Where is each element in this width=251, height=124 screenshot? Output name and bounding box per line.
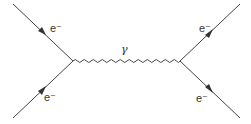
arrow-icon-top-left (38, 27, 46, 35)
photon-propagator (73, 60, 180, 63)
label-top-left: e⁻ (50, 22, 62, 34)
label-photon: γ (121, 43, 128, 56)
label-bottom-left: e⁻ (44, 91, 56, 103)
label-top-right: e⁻ (199, 22, 211, 34)
feynman-diagram: e⁻ e⁻ e⁻ e⁻ γ (0, 0, 251, 124)
label-bottom-right: e⁻ (196, 92, 208, 104)
